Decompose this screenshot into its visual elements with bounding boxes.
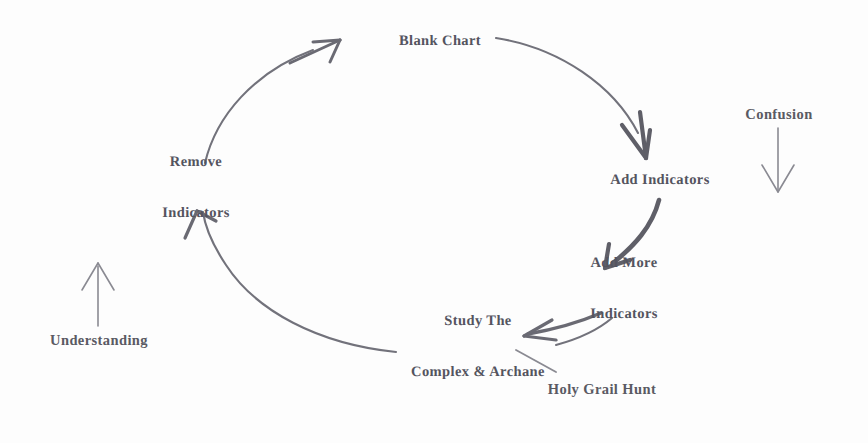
- node-label-study-the-complex-and-archane: Study The Complex & Archane: [411, 279, 545, 415]
- annotation-label-understanding: Understanding: [50, 332, 148, 349]
- annotation-arrow-understanding: [82, 263, 114, 326]
- diagram-canvas: Blank Chart Add Indicators Add More Indi…: [0, 0, 868, 443]
- node-label-blank-chart: Blank Chart: [399, 0, 481, 84]
- node-label-add-more-indicators: Add More Indicators: [590, 221, 658, 357]
- arrowhead-into-blank-chart: [290, 40, 340, 63]
- annotation-label-holy-grail-hunt: Holy Grail Hunt: [548, 381, 656, 398]
- node-label-add-indicators: Add Indicators: [610, 138, 709, 223]
- annotation-label-confusion: Confusion: [745, 106, 812, 123]
- annotation-arrow-confusion: [762, 128, 794, 192]
- arc-blank-to-add: [496, 38, 638, 133]
- node-label-remove-indicators: Remove Indicators: [162, 120, 230, 256]
- arc-study-to-remove: [203, 212, 396, 352]
